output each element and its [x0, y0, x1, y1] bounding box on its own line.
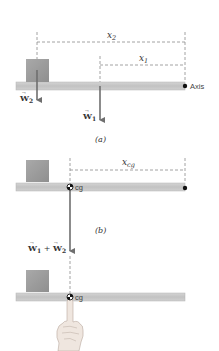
axis-label: Axis	[190, 82, 204, 91]
cg-label-c: cg	[75, 293, 83, 302]
cg-marker-icon	[67, 184, 73, 190]
cg-label-b: cg	[75, 183, 83, 192]
axis-pivot-dot-b	[183, 186, 187, 190]
panel-a: x2 x1 Axis W2 → W1 → (a)	[16, 30, 204, 144]
beam-c	[16, 293, 185, 301]
w2-vector-arrow-icon: →	[21, 89, 27, 95]
center-of-gravity-diagram: x2 x1 Axis W2 → W1 → (a) xcg	[0, 0, 219, 351]
xcg-label: xcg	[122, 157, 135, 169]
panel-b-caption: (b)	[95, 226, 106, 235]
w1-vector-arrow-icon: →	[84, 107, 90, 113]
cg-marker-icon-c	[67, 294, 73, 300]
panel-a-caption: (a)	[95, 135, 106, 144]
w2-sum-vector-arrow-icon: →	[53, 239, 59, 245]
block-c	[26, 270, 49, 292]
panel-b: xcg cg (b) W1 + W2 → →	[16, 157, 187, 254]
block-b	[26, 160, 49, 182]
x1-label: x1	[139, 53, 148, 65]
panel-c: cg	[16, 256, 185, 351]
w1-sum-vector-arrow-icon: →	[29, 239, 35, 245]
axis-pivot-dot	[183, 84, 187, 88]
x2-label: x2	[107, 30, 116, 42]
balancing-hand-icon	[57, 299, 84, 351]
beam-b	[16, 183, 185, 191]
